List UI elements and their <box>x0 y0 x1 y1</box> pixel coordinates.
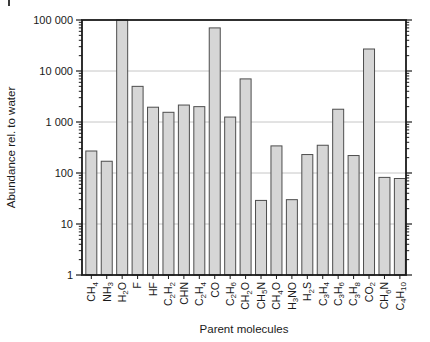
bar-C4H10 <box>394 179 405 275</box>
bar-CH6N <box>379 177 390 275</box>
bar-CH5N <box>256 200 267 275</box>
y-tick-label-100000: 100 000 <box>33 14 73 26</box>
bar-CH4O <box>271 146 282 275</box>
x-tick-label-C2H6: C2H6 <box>224 281 238 306</box>
x-tick-label-CHN: CHN <box>178 282 190 305</box>
bar-HF <box>148 107 159 275</box>
y-tick-label-100: 100 <box>55 167 73 179</box>
x-tick-label-C3H6: C3H6 <box>332 281 346 306</box>
bar-CH4 <box>86 151 97 275</box>
x-tick-label-H3NO: H3NO <box>286 282 300 310</box>
abundance-bar-chart: 1101001 00010 000100 000CH4NH3H2OFHFC2H2… <box>0 0 430 342</box>
x-tick-label-C4H10: C4H10 <box>394 281 408 310</box>
figure-corner-mark <box>8 0 10 6</box>
figure-abundance-chart: 1101001 00010 000100 000CH4NH3H2OFHFC2H2… <box>0 0 430 342</box>
bar-NH3 <box>101 161 112 275</box>
x-tick-label-CO: CO <box>209 282 221 298</box>
bar-C3H6 <box>333 109 344 275</box>
x-tick-label-F: F <box>131 282 143 288</box>
x-tick-label-C3H8: C3H8 <box>347 281 361 306</box>
x-tick-label-C3H4: C3H4 <box>317 281 331 306</box>
y-axis-title: Abundance rel. to water <box>5 87 17 209</box>
bar-F <box>132 86 143 275</box>
x-tick-label-CH6N: CH6N <box>378 282 392 309</box>
bar-C3H4 <box>317 145 328 275</box>
y-tick-label-10000: 10 000 <box>39 65 73 77</box>
y-tick-label-10: 10 <box>61 218 73 230</box>
bar-CO2 <box>364 49 375 275</box>
bar-CHN <box>178 105 189 275</box>
bar-C2H6 <box>225 117 236 275</box>
x-tick-label-HF: HF <box>147 282 159 296</box>
y-tick-label-1: 1 <box>67 269 73 281</box>
x-tick-label-CH2O: CH2O <box>239 282 253 310</box>
bar-H3NO <box>286 200 297 275</box>
x-tick-label-CH5N: CH5N <box>255 282 269 309</box>
bar-H2S <box>302 155 313 275</box>
x-tick-label-H2S: H2S <box>301 282 315 301</box>
x-tick-label-CH4O: CH4O <box>270 282 284 310</box>
bar-C3H8 <box>348 156 359 275</box>
bar-C2H4 <box>194 107 205 275</box>
x-tick-label-CO2: CO2 <box>363 281 377 302</box>
bar-CH2O <box>240 79 251 275</box>
bar-H2O <box>117 20 128 275</box>
x-tick-label-C2H4: C2H4 <box>193 281 207 306</box>
bar-CO <box>209 28 220 275</box>
x-tick-label-C2H2: C2H2 <box>162 281 176 306</box>
x-tick-label-CH4: CH4 <box>85 281 99 301</box>
bar-C2H2 <box>163 112 174 275</box>
x-axis-title: Parent molecules <box>200 323 289 335</box>
x-tick-label-H2O: H2O <box>116 282 130 302</box>
x-tick-label-NH3: NH3 <box>101 281 115 301</box>
y-tick-label-1000: 1 000 <box>45 116 73 128</box>
